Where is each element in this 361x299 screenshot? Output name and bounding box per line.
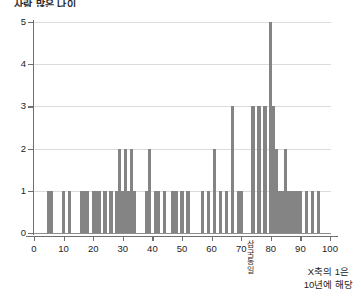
y-tick-label-2: 2 [10, 144, 26, 153]
x-tick-mark-30 [123, 236, 124, 241]
x-tick-label-60: 60 [200, 243, 224, 254]
bar [225, 191, 228, 233]
bar [311, 191, 314, 233]
y-tick-label-0: 0 [10, 228, 26, 237]
x-tick-mark-70 [241, 236, 242, 241]
x-tick-label-80: 80 [259, 243, 283, 254]
bar [109, 191, 112, 233]
y-tick-label-4: 4 [10, 59, 26, 68]
bar [148, 149, 151, 233]
bar [201, 191, 204, 233]
y-axis-line [33, 20, 34, 235]
bar [251, 106, 254, 233]
axis-note: X축의 1은 10년에 해당 [304, 266, 353, 291]
bar [174, 191, 177, 233]
x-tick-label-0: 0 [22, 243, 46, 254]
x-tick-label-10: 10 [52, 243, 76, 254]
x-tick-mark-40 [152, 236, 153, 241]
bar [186, 191, 189, 233]
x-tick-mark-50 [182, 236, 183, 241]
y-tick-label-1: 1 [10, 186, 26, 195]
x-tick-label-90: 90 [288, 243, 312, 254]
x-tick-mark-90 [300, 236, 301, 241]
bar [68, 191, 71, 233]
y-tick-label-5: 5 [10, 17, 26, 26]
bar [219, 191, 222, 233]
axis-note-line-1: X축의 1은 [304, 266, 353, 279]
axis-note-line-2: 10년에 해당 [304, 279, 353, 292]
y-tick-label-3: 3 [10, 101, 26, 110]
x-tick-label-40: 40 [140, 243, 164, 254]
bar [207, 191, 210, 233]
x-tick-label-20: 20 [81, 243, 105, 254]
y-tick-mark-4 [28, 64, 33, 65]
bar [86, 191, 89, 233]
gridline-y-4 [34, 64, 331, 65]
bar [263, 106, 266, 233]
y-tick-mark-0 [28, 233, 33, 234]
bar [133, 191, 136, 233]
gridline-y-0 [34, 233, 331, 234]
gridline-y-3 [34, 106, 331, 107]
plot-area [34, 22, 330, 233]
bar [240, 191, 243, 233]
bar [157, 191, 160, 233]
bar [62, 191, 65, 233]
bar [180, 191, 183, 233]
y-tick-mark-5 [28, 22, 33, 23]
gridline-y-5 [34, 22, 331, 23]
x-tick-mark-80 [271, 236, 272, 241]
x-tick-label-30: 30 [111, 243, 135, 254]
bar [163, 191, 166, 233]
bar [257, 106, 260, 233]
bar [305, 191, 308, 233]
x-tick-mark-0 [34, 236, 35, 241]
bar [97, 191, 100, 233]
x-tick-mark-20 [93, 236, 94, 241]
x-tick-label-50: 50 [170, 243, 194, 254]
x-tick-label-70: 70 [229, 243, 253, 254]
x-tick-mark-60 [212, 236, 213, 241]
y-tick-mark-3 [28, 106, 33, 107]
bar [299, 191, 302, 233]
annotation-char-4: 일 [244, 267, 256, 276]
x-tick-label-100: 100 [318, 243, 342, 254]
y-tick-mark-1 [28, 191, 33, 192]
x-tick-mark-100 [330, 236, 331, 241]
y-tick-mark-2 [28, 149, 33, 150]
bar [231, 106, 234, 233]
bar [50, 191, 53, 233]
x-tick-mark-10 [64, 236, 65, 241]
bar [103, 191, 106, 233]
bar [213, 149, 216, 233]
bar [317, 191, 320, 233]
histogram-chart: 삼 국 통 일 X축의 1은 10년에 해당 01234501020304050… [0, 0, 361, 299]
